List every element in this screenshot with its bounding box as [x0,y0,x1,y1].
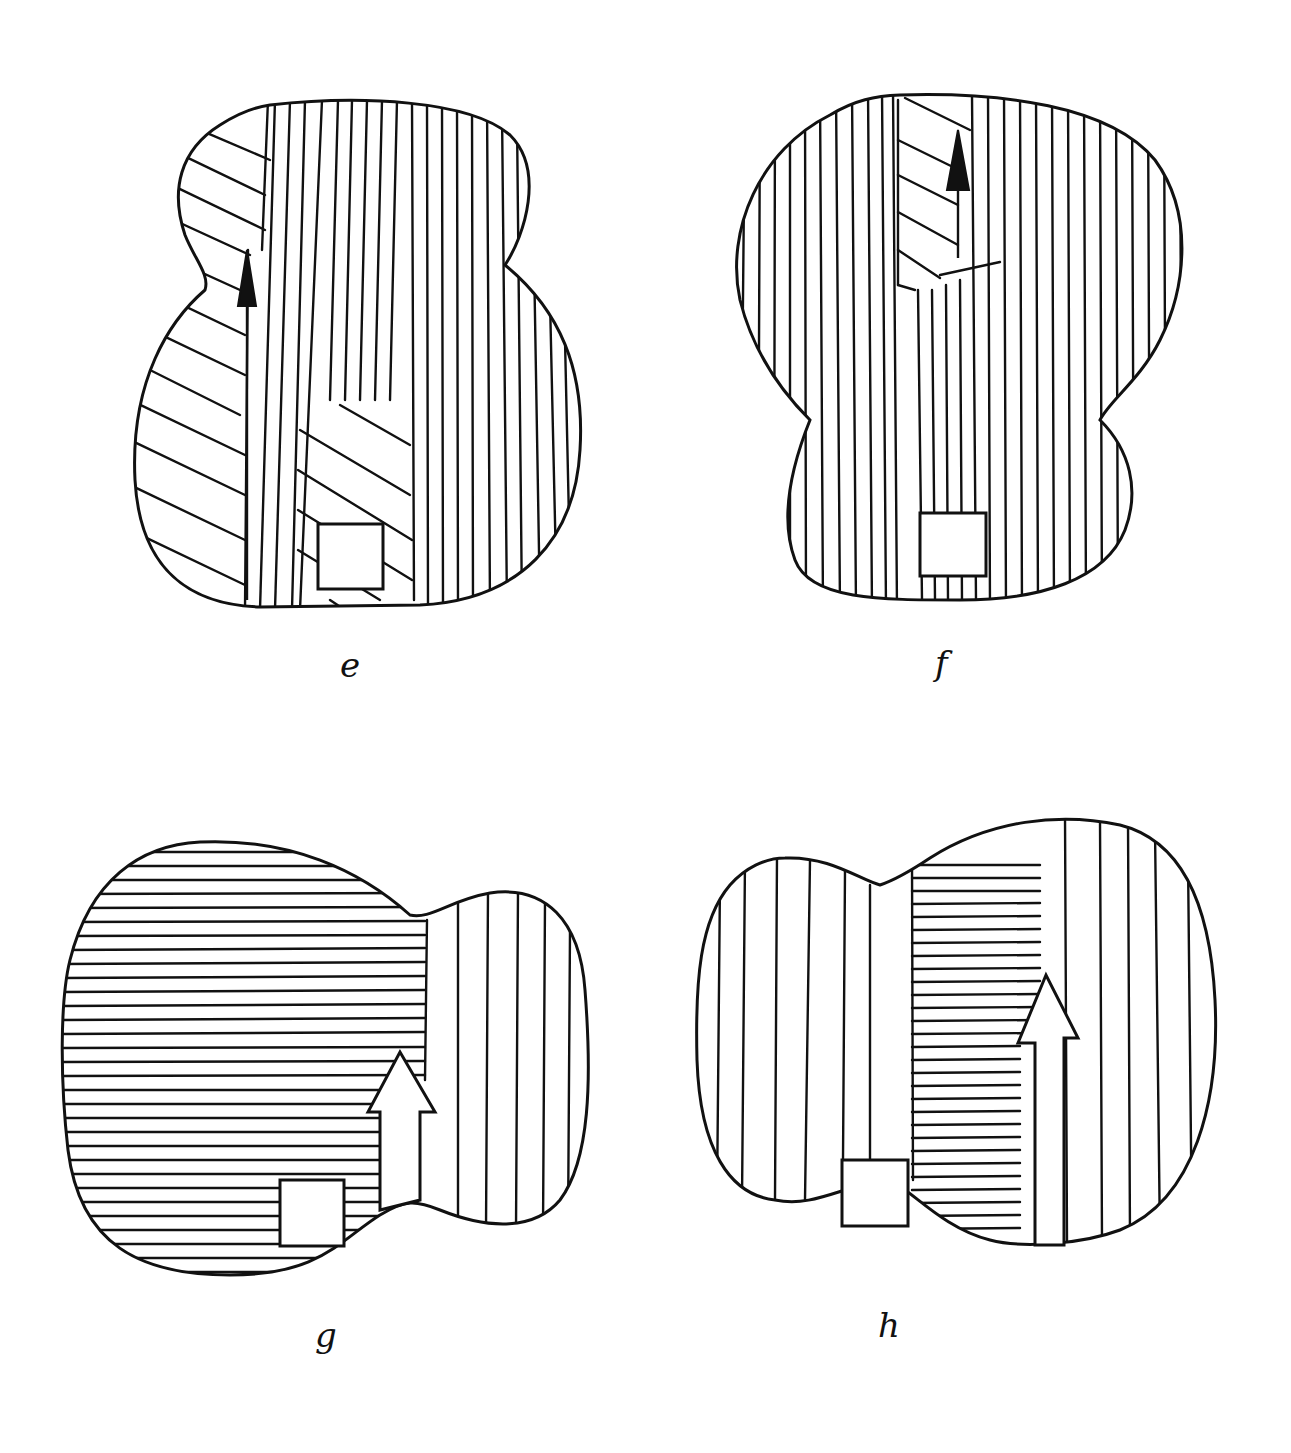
figure-label-h: h [878,1308,900,1342]
grain-lines [717,815,1192,1240]
bridge-patch-square [842,1160,908,1226]
figure-h: h [0,0,1291,1453]
grain-direction-arrow-icon [1018,975,1078,1245]
guitar-body-h [0,0,1291,1453]
